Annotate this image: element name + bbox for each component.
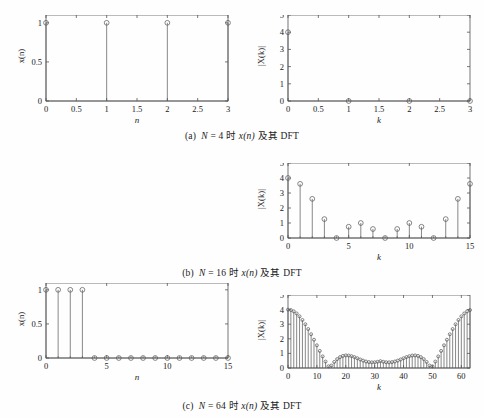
y-axis-label: |X(k)| [256, 178, 266, 220]
caption-when: 时 [229, 401, 239, 411]
x-tick-label: 1.5 [374, 104, 385, 114]
y-tick-label: 3 [280, 188, 284, 198]
y-tick-label: 2 [280, 334, 284, 344]
figure-caption-c: (c) N = 64 时 x(n) 及其 DFT [0, 398, 484, 412]
caption-tail: 及其 DFT [260, 268, 302, 278]
caption-variable: N [199, 268, 206, 278]
y-tick-label: 5 [280, 163, 284, 168]
figure-caption-b: (b) N = 16 时 x(n) 及其 DFT [0, 265, 484, 279]
figure-caption-a: (a) N = 4 时 x(n) 及其 DFT [0, 128, 484, 142]
y-axis-label: |X(k)| [256, 35, 266, 77]
caption-value: = 64 [208, 401, 226, 411]
x-tick-label: 0 [286, 104, 290, 114]
caption-tail: 及其 DFT [260, 401, 302, 411]
caption-signal: x(n) [242, 268, 258, 278]
x-tick-label: 0.5 [313, 104, 324, 114]
y-tick-label: 4 [280, 27, 285, 37]
panel-c-right: 0102030405060012345|X(k)|k [0, 295, 484, 402]
caption-variable: N [199, 401, 206, 411]
x-tick-label: 30 [370, 371, 379, 381]
x-axis-label: k [288, 115, 470, 125]
y-tick-label: 3 [280, 319, 284, 329]
x-tick-label: 40 [399, 371, 408, 381]
y-axis-label: |X(k)| [256, 309, 266, 351]
y-tick-label: 0 [280, 233, 284, 243]
x-tick-label: 15 [466, 241, 475, 251]
plot-frame [288, 15, 470, 101]
panel-b-right: 051015012345|X(k)|k [0, 163, 484, 272]
x-axis-label: k [288, 252, 470, 262]
caption-index: (a) [185, 131, 196, 141]
x-tick-label: 50 [428, 371, 437, 381]
y-tick-label: 1 [38, 285, 42, 295]
x-tick-label: 0 [286, 241, 290, 251]
y-tick-label: 4 [280, 305, 285, 315]
caption-value: = 16 [208, 268, 226, 278]
x-axis-label: k [288, 382, 470, 392]
x-tick-label: 2 [407, 104, 411, 114]
x-tick-label: 1 [347, 104, 351, 114]
dft-figure: 00.511.522.5300.51x(n)n00.511.522.530123… [0, 0, 484, 417]
y-tick-label: 4 [280, 173, 285, 183]
caption-signal: x(n) [239, 131, 255, 141]
y-tick-label: 2 [280, 203, 284, 213]
caption-index: (c) [182, 401, 193, 411]
stem-series [287, 308, 472, 368]
y-tick-label: 0 [280, 363, 284, 373]
x-tick-label: 2.5 [434, 104, 445, 114]
caption-index: (b) [182, 268, 194, 278]
caption-tail: 及其 DFT [258, 131, 300, 141]
axis-ticks: 00.511.522.53012345 [280, 15, 472, 114]
caption-when: 时 [226, 131, 236, 141]
y-tick-label: 0 [280, 96, 284, 106]
plot-frame [288, 163, 470, 238]
stem-series [286, 30, 473, 104]
panel-a-right: 00.511.522.53012345|X(k)|k [0, 15, 484, 135]
caption-signal: x(n) [241, 401, 257, 411]
x-tick-label: 60 [457, 371, 466, 381]
y-tick-label: 5 [280, 15, 284, 20]
y-tick-label: 1 [280, 218, 284, 228]
x-tick-label: 0 [286, 371, 290, 381]
y-tick-label: 1 [280, 348, 284, 358]
caption-when: 时 [229, 268, 239, 278]
y-tick-label: 1 [280, 79, 284, 89]
y-tick-label: 3 [280, 44, 284, 54]
x-tick-label: 10 [405, 241, 414, 251]
plot-frame [288, 295, 470, 368]
caption-value: = 4 [210, 131, 223, 141]
x-tick-label: 5 [347, 241, 351, 251]
y-tick-label: 5 [280, 295, 284, 300]
stem-series [286, 176, 473, 241]
caption-variable: N [201, 131, 208, 141]
x-tick-label: 20 [342, 371, 351, 381]
x-tick-label: 10 [313, 371, 322, 381]
y-tick-label: 2 [280, 62, 284, 72]
x-tick-label: 3 [468, 104, 472, 114]
